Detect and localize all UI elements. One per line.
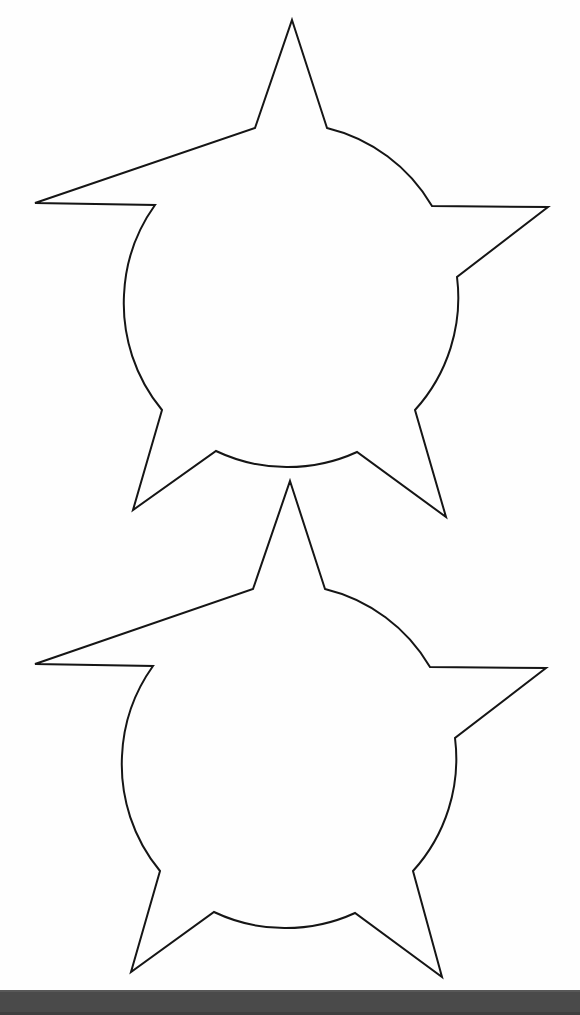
bar-highlight-edge (0, 990, 580, 992)
star-circle-outline-bottom (35, 481, 546, 977)
scanner-edge-bar (0, 990, 580, 1015)
scanned-page (0, 0, 580, 1015)
star-template-artwork (0, 0, 580, 1015)
star-circle-outline-top (35, 20, 548, 517)
